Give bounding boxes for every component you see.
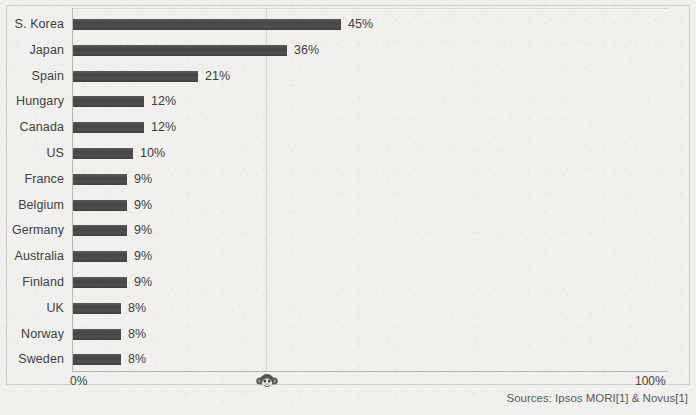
- bar-category-label: US: [0, 140, 64, 166]
- bar-row: S. Korea45%: [0, 11, 696, 37]
- bar-category-label: Australia: [0, 243, 64, 269]
- bar: [73, 200, 127, 211]
- bar: [73, 225, 127, 236]
- monkey-face-icon: [256, 370, 278, 392]
- bar-value-label: 21%: [205, 63, 230, 89]
- bar: [73, 329, 121, 340]
- bar: [73, 251, 127, 262]
- bar-row: Spain21%: [0, 63, 696, 89]
- bar-row: Japan36%: [0, 37, 696, 63]
- bar-category-label: Finland: [0, 269, 64, 295]
- bar: [73, 354, 121, 365]
- bar-row: France9%: [0, 166, 696, 192]
- bar-category-label: S. Korea: [0, 11, 64, 37]
- bar: [73, 148, 133, 159]
- bar-row: Finland9%: [0, 269, 696, 295]
- plot-area-top-border: [72, 8, 668, 9]
- horizontal-bar-chart: S. Korea45%Japan36%Spain21%Hungary12%Can…: [0, 0, 696, 415]
- bar: [73, 277, 127, 288]
- bar-category-label: Belgium: [0, 192, 64, 218]
- bar-value-label: 9%: [134, 243, 152, 269]
- bar: [73, 122, 144, 133]
- x-axis-tick-100: 100%: [635, 374, 666, 388]
- bar-category-label: Germany: [0, 217, 64, 243]
- bar-category-label: France: [0, 166, 64, 192]
- bar-row: Sweden8%: [0, 346, 696, 372]
- bar-row: Norway8%: [0, 321, 696, 347]
- bar: [73, 71, 198, 82]
- bar-category-label: Norway: [0, 321, 64, 347]
- bar-row: Belgium9%: [0, 192, 696, 218]
- bar-value-label: 9%: [134, 217, 152, 243]
- bar-category-label: UK: [0, 295, 64, 321]
- bar-value-label: 9%: [134, 269, 152, 295]
- bar-value-label: 12%: [151, 114, 176, 140]
- bar-row: Germany9%: [0, 217, 696, 243]
- bar-value-label: 8%: [128, 295, 146, 321]
- bar: [73, 45, 287, 56]
- bar: [73, 174, 127, 185]
- bar-category-label: Sweden: [0, 346, 64, 372]
- bar-value-label: 45%: [348, 11, 373, 37]
- bar-category-label: Japan: [0, 37, 64, 63]
- x-axis-tick-0: 0%: [70, 374, 87, 388]
- bar: [73, 96, 144, 107]
- bar-value-label: 8%: [128, 346, 146, 372]
- bar-value-label: 9%: [134, 166, 152, 192]
- bar: [73, 19, 341, 30]
- bar-value-label: 9%: [134, 192, 152, 218]
- bar-row: Hungary12%: [0, 88, 696, 114]
- bar-value-label: 8%: [128, 321, 146, 347]
- bar-row: Canada12%: [0, 114, 696, 140]
- bar-row: UK8%: [0, 295, 696, 321]
- bar-value-label: 36%: [294, 37, 319, 63]
- sources-note: Sources: Ipsos MORI[1] & Novus[1]: [506, 392, 688, 404]
- bar-row: Australia9%: [0, 243, 696, 269]
- bar-category-label: Spain: [0, 63, 64, 89]
- bar-value-label: 10%: [140, 140, 165, 166]
- bar-category-label: Hungary: [0, 88, 64, 114]
- bar-category-label: Canada: [0, 114, 64, 140]
- bar-row: US10%: [0, 140, 696, 166]
- bar: [73, 303, 121, 314]
- bar-value-label: 12%: [151, 88, 176, 114]
